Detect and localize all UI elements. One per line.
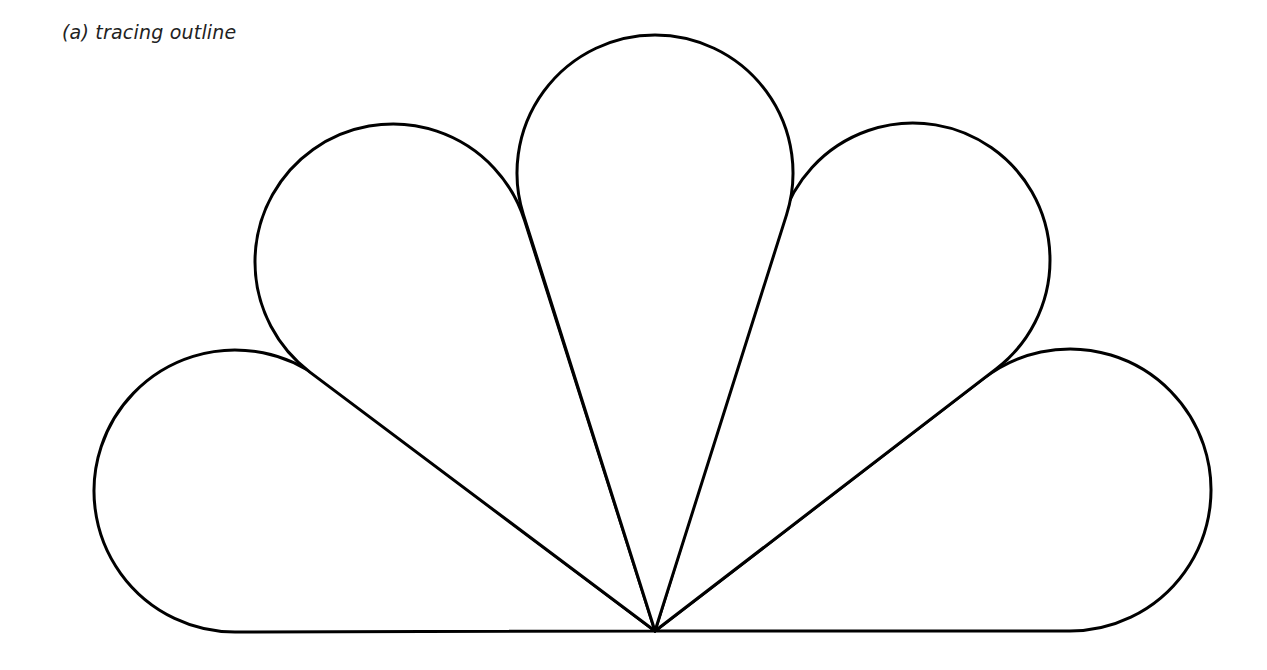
peacock-outline-figure: [0, 0, 1267, 670]
